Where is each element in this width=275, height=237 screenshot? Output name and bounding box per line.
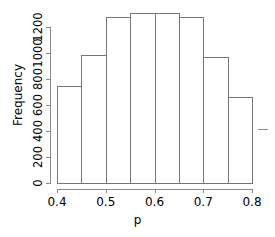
y-axis-tick-label: 1000 — [33, 38, 44, 67]
x-axis-tick-label: 0.7 — [183, 195, 223, 209]
y-axis-tick-label: 200 — [33, 146, 44, 168]
x-axis-tick-label: 0.6 — [135, 195, 175, 209]
histogram-bar — [130, 13, 155, 184]
histogram-bar — [228, 97, 253, 184]
x-axis-tick-label: 0.5 — [86, 195, 126, 209]
histogram-bar — [81, 55, 106, 184]
y-axis-tick-label: 600 — [33, 94, 44, 116]
y-axis-tick — [46, 79, 50, 80]
x-axis-tick — [252, 189, 253, 193]
histogram-plot: Frequency 020040060080010001200 0.40.50.… — [0, 0, 275, 237]
histogram-bar — [155, 13, 180, 184]
histogram-bar — [57, 86, 82, 185]
y-axis-line — [50, 27, 51, 184]
x-axis-tick — [57, 189, 58, 193]
histogram-bar — [106, 17, 131, 184]
histogram-bar — [203, 57, 228, 184]
y-axis-tick — [46, 131, 50, 132]
x-axis-tick — [203, 189, 204, 193]
y-axis-tick — [46, 105, 50, 106]
histogram-bar — [179, 17, 204, 184]
y-axis-tick — [46, 183, 50, 184]
y-axis-tick — [46, 53, 50, 54]
y-axis-tick-label: 800 — [33, 68, 44, 90]
y-axis-tick — [46, 157, 50, 158]
x-axis-tick — [155, 189, 156, 193]
x-axis-tick-label: 0.8 — [232, 195, 272, 209]
x-axis-tick — [106, 189, 107, 193]
y-axis-title: Frequency — [10, 0, 26, 190]
x-axis-tick-label: 0.4 — [37, 195, 77, 209]
edge-tick-artifact — [258, 129, 268, 130]
x-axis-title: p — [0, 213, 275, 227]
y-axis-tick-label: 400 — [33, 120, 44, 142]
y-axis-tick-label: 1200 — [33, 12, 44, 41]
y-axis-tick-label: 0 — [33, 179, 44, 186]
y-axis-tick — [46, 27, 50, 28]
